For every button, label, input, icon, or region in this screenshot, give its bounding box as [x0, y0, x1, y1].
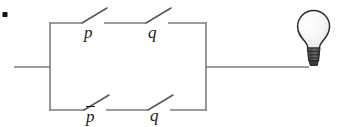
bulb-base-tip — [309, 61, 318, 66]
switch-label-q-top: q — [148, 24, 157, 41]
switch-label-p-top: p — [84, 24, 93, 41]
switch-p-top-blade[interactable] — [82, 8, 107, 23]
switch-label-q-bottom: q — [150, 107, 159, 124]
bulb-glass-stipple — [299, 12, 328, 47]
bottom-branch — [49, 95, 207, 110]
switch-label-p-negated-bottom: p — [86, 106, 95, 125]
top-branch — [49, 8, 207, 23]
corner-bullet-mark — [3, 12, 8, 17]
light-bulb — [298, 11, 330, 66]
switch-label-p-top-text: p — [84, 23, 93, 42]
switch-label-q-bottom-text: q — [150, 106, 159, 125]
switch-label-p-negated-bottom-text: p — [86, 106, 95, 125]
circuit-diagram-canvas — [0, 0, 337, 127]
switch-label-q-top-text: q — [148, 23, 157, 42]
switch-q-top-blade[interactable] — [146, 8, 171, 23]
switching-circuit-figure: p q p q — [0, 0, 337, 127]
